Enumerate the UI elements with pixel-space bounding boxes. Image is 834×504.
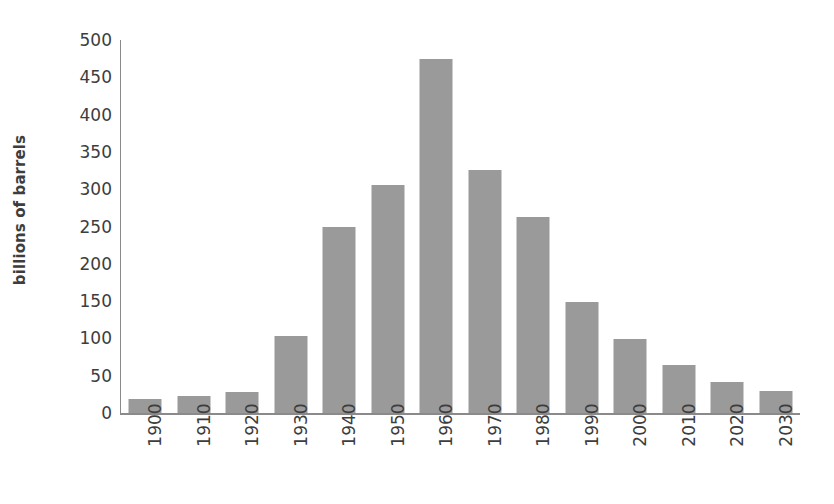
bar[interactable] — [565, 302, 598, 413]
bar-slot — [121, 40, 170, 413]
bar-slot — [412, 40, 461, 413]
x-tick-slot: 2030 — [752, 419, 801, 499]
x-tick-label: 1960 — [436, 403, 456, 446]
bar-slot — [218, 40, 267, 413]
y-tick-label: 200 — [44, 254, 112, 274]
bar[interactable] — [371, 185, 404, 413]
y-tick-label: 500 — [44, 30, 112, 50]
bar[interactable] — [274, 336, 307, 413]
x-tick-label: 1920 — [242, 403, 262, 446]
bar-slot — [752, 40, 801, 413]
bar-slot — [509, 40, 558, 413]
bar-slot — [267, 40, 316, 413]
x-tick-slot: 2000 — [606, 419, 655, 499]
y-tick-label: 300 — [44, 179, 112, 199]
x-tick-slot: 1980 — [509, 419, 558, 499]
x-tick-label: 2000 — [630, 403, 650, 446]
y-tick-label: 150 — [44, 291, 112, 311]
x-tick-slot: 1910 — [170, 419, 219, 499]
y-axis-title-text: billions of barrels — [11, 135, 29, 285]
x-tick-slot: 1950 — [364, 419, 413, 499]
x-tick-label: 1940 — [339, 403, 359, 446]
bar-slot — [558, 40, 607, 413]
x-tick-slot: 1900 — [121, 419, 170, 499]
plot-area — [121, 40, 800, 413]
bar-slot — [461, 40, 510, 413]
y-tick-label: 100 — [44, 328, 112, 348]
x-tick-label: 2030 — [776, 403, 796, 446]
y-axis-tick-labels: 050100150200250300350400450500 — [44, 0, 112, 414]
bar-slot — [655, 40, 704, 413]
x-tick-label: 2020 — [727, 403, 747, 446]
bar[interactable] — [420, 59, 453, 413]
y-tick-label: 250 — [44, 217, 112, 237]
x-tick-slot: 2010 — [655, 419, 704, 499]
x-tick-label: 1900 — [145, 403, 165, 446]
bar-slot — [315, 40, 364, 413]
y-tick-label: 50 — [44, 366, 112, 386]
bar[interactable] — [614, 339, 647, 413]
x-tick-slot: 1940 — [315, 419, 364, 499]
x-tick-slot: 1960 — [412, 419, 461, 499]
x-tick-slot: 1920 — [218, 419, 267, 499]
y-tick-label: 450 — [44, 67, 112, 87]
bar[interactable] — [323, 227, 356, 413]
x-tick-label: 1980 — [533, 403, 553, 446]
x-axis-tick-labels: 1900191019201930194019501960197019801990… — [121, 419, 800, 499]
y-tick-label: 350 — [44, 142, 112, 162]
bar[interactable] — [468, 170, 501, 413]
bar[interactable] — [517, 217, 550, 413]
y-tick-label: 0 — [44, 403, 112, 423]
x-tick-label: 1930 — [291, 403, 311, 446]
y-axis-title: billions of barrels — [0, 0, 40, 420]
x-tick-label: 1970 — [485, 403, 505, 446]
y-tick-label: 400 — [44, 105, 112, 125]
x-tick-slot: 1990 — [558, 419, 607, 499]
x-tick-slot: 1930 — [267, 419, 316, 499]
bar-slot — [606, 40, 655, 413]
x-tick-label: 1910 — [194, 403, 214, 446]
bar-slot — [703, 40, 752, 413]
x-tick-label: 1990 — [582, 403, 602, 446]
x-tick-label: 1950 — [388, 403, 408, 446]
x-tick-slot: 2020 — [703, 419, 752, 499]
x-tick-label: 2010 — [679, 403, 699, 446]
bar-slot — [170, 40, 219, 413]
bar-slot — [364, 40, 413, 413]
x-tick-slot: 1970 — [461, 419, 510, 499]
bar-chart: billions of barrels 05010015020025030035… — [0, 0, 834, 504]
